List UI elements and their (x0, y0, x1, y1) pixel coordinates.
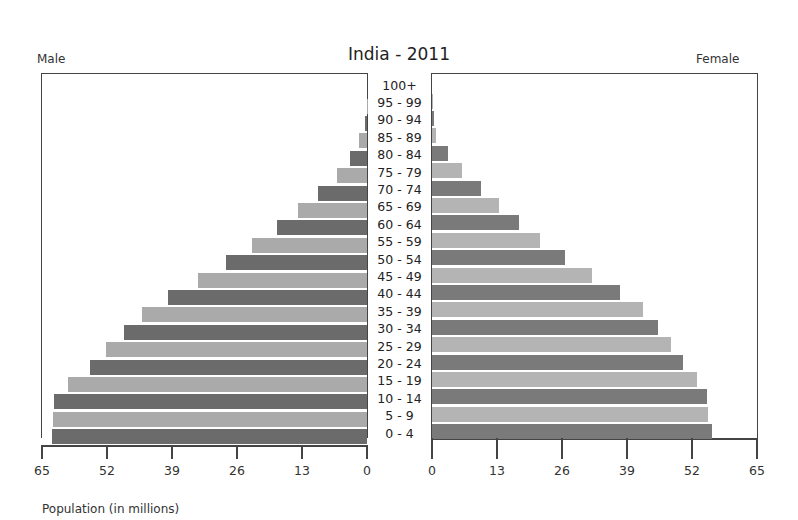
age-group-label: 40 - 44 (367, 285, 432, 302)
x-tick (561, 438, 563, 459)
male-bar (53, 412, 367, 427)
age-group-label: 35 - 39 (367, 303, 432, 320)
x-tick (171, 445, 173, 459)
male-bar (106, 342, 367, 357)
x-tick-label: 26 (542, 463, 582, 478)
age-group-label: 45 - 49 (367, 268, 432, 285)
female-bar (432, 233, 540, 248)
male-bar (277, 220, 367, 235)
female-label: Female (696, 52, 739, 66)
male-bar (142, 307, 367, 322)
female-bar (432, 407, 708, 422)
age-group-label: 50 - 54 (367, 251, 432, 268)
female-bar (432, 163, 462, 178)
age-group-label: 10 - 14 (367, 390, 432, 407)
age-group-label: 60 - 64 (367, 216, 432, 233)
female-bar (432, 302, 643, 317)
age-group-label: 85 - 89 (367, 129, 432, 146)
x-tick-label: 39 (607, 463, 647, 478)
female-bar (432, 320, 658, 335)
male-x-axis (41, 445, 368, 447)
female-bar (432, 250, 565, 265)
x-tick-label: 13 (477, 463, 517, 478)
age-group-label: 0 - 4 (367, 425, 432, 442)
x-tick-label: 39 (152, 463, 192, 478)
x-tick-label: 52 (672, 463, 712, 478)
female-bar (432, 111, 434, 126)
x-tick (691, 438, 693, 459)
age-group-label: 80 - 84 (367, 146, 432, 163)
female-bar (432, 268, 592, 283)
male-bar (168, 290, 367, 305)
female-bar (432, 198, 499, 213)
x-tick (106, 445, 108, 459)
age-group-label: 65 - 69 (367, 198, 432, 215)
x-tick (366, 445, 368, 459)
chart-title: India - 2011 (0, 44, 798, 64)
age-group-label: 55 - 59 (367, 233, 432, 250)
x-tick-label: 65 (22, 463, 62, 478)
female-bar (432, 94, 433, 109)
age-group-label: 25 - 29 (367, 338, 432, 355)
male-bar (54, 394, 367, 409)
x-tick (431, 438, 433, 459)
male-bar (198, 273, 367, 288)
x-tick (626, 438, 628, 459)
female-bar (432, 146, 448, 161)
female-bar (432, 389, 707, 404)
age-group-label: 30 - 34 (367, 320, 432, 337)
x-tick-label: 52 (87, 463, 127, 478)
female-bar (432, 372, 697, 387)
male-bar (350, 151, 367, 166)
x-tick-label: 26 (217, 463, 257, 478)
x-tick-label: 13 (282, 463, 322, 478)
age-group-label: 15 - 19 (367, 372, 432, 389)
female-bar (432, 355, 683, 370)
male-bar (124, 325, 367, 340)
age-group-label: 100+ (367, 77, 432, 94)
female-bar (432, 128, 436, 143)
male-bar (359, 133, 367, 148)
age-group-label: 70 - 74 (367, 181, 432, 198)
age-group-label: 20 - 24 (367, 355, 432, 372)
male-bar (337, 168, 367, 183)
x-tick (301, 445, 303, 459)
female-bar (432, 424, 712, 439)
x-tick (496, 438, 498, 459)
x-axis-label: Population (in millions) (42, 502, 179, 516)
male-bar (298, 203, 367, 218)
male-bar (90, 360, 367, 375)
male-label: Male (37, 52, 65, 66)
x-tick (236, 445, 238, 459)
x-tick-label: 0 (412, 463, 452, 478)
age-group-label: 5 - 9 (367, 407, 432, 424)
age-group-label: 95 - 99 (367, 94, 432, 111)
x-tick (756, 438, 758, 459)
x-tick-label: 0 (347, 463, 387, 478)
female-bar (432, 181, 481, 196)
female-bar (432, 215, 519, 230)
male-bar (52, 429, 367, 444)
male-bar (252, 238, 367, 253)
male-bar (318, 186, 367, 201)
age-group-label: 75 - 79 (367, 164, 432, 181)
female-bar (432, 285, 620, 300)
x-tick (41, 445, 43, 459)
male-bar (68, 377, 367, 392)
x-tick-label: 65 (737, 463, 777, 478)
age-group-label: 90 - 94 (367, 111, 432, 128)
female-bar (432, 337, 671, 352)
male-bar (226, 255, 367, 270)
